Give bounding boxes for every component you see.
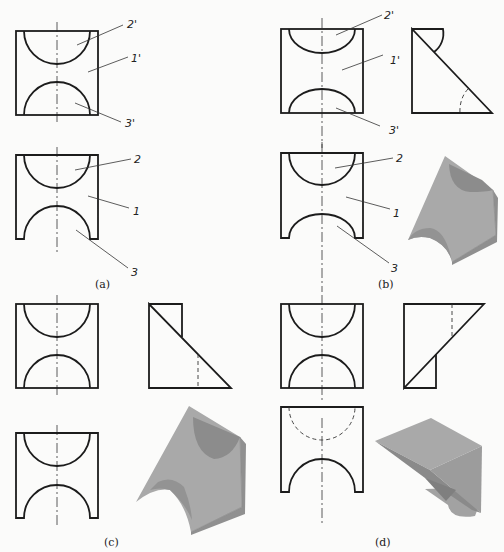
panel-a: 2' 1' 3' 2 1 3 (a) — [16, 18, 141, 291]
panel-d: (d) — [281, 295, 484, 549]
panel-d-front-view — [281, 295, 363, 400]
orthographic-projection-figure: 2' 1' 3' 2 1 3 (a) 2' 1' — [0, 0, 504, 552]
label-3: 3 — [391, 262, 398, 275]
label-1-prime: 1' — [390, 54, 400, 67]
panel-b-front-view: 2' 1' 3' — [281, 9, 400, 148]
panel-c-front-view — [16, 295, 98, 395]
label-1: 1 — [133, 205, 140, 218]
label-2-prime: 2' — [384, 9, 394, 22]
label-3: 3 — [131, 266, 138, 279]
label-3-prime: 3' — [389, 124, 399, 137]
panel-a-top-view: 2 1 3 — [16, 147, 141, 279]
label-2-prime: 2' — [127, 18, 137, 31]
leader-line — [77, 25, 123, 45]
panel-c-side-view — [149, 304, 231, 388]
panel-c: (c) — [16, 295, 246, 549]
label-2: 2 — [134, 153, 141, 166]
caption-c: (c) — [104, 536, 119, 549]
caption-d: (d) — [375, 536, 391, 549]
panel-b-isometric-solid — [408, 156, 498, 265]
label-1: 1 — [393, 207, 400, 220]
panel-d-isometric-solid — [375, 418, 482, 517]
leader-line — [76, 230, 128, 268]
leader-line — [88, 196, 129, 208]
label-3-prime: 3' — [125, 117, 135, 130]
panel-d-side-view — [404, 304, 484, 388]
panel-c-isometric-solid — [136, 406, 246, 535]
caption-b: (b) — [378, 278, 394, 291]
caption-a: (a) — [95, 278, 110, 291]
panel-c-top-view — [16, 425, 98, 528]
leader-line — [336, 108, 380, 126]
leader-line — [336, 15, 382, 35]
panel-b: 2' 1' 3' 2 1 3 (b) — [281, 9, 498, 292]
leader-line — [75, 159, 131, 170]
leader-line — [88, 57, 128, 72]
leader-line — [335, 158, 393, 168]
panel-d-top-view — [281, 407, 363, 525]
panel-b-top-view: 2 1 3 — [281, 142, 403, 292]
leader-line — [346, 197, 390, 209]
panel-b-side-view — [412, 29, 492, 113]
label-2: 2 — [396, 152, 403, 165]
label-1-prime: 1' — [131, 52, 141, 65]
panel-a-front-view: 2' 1' 3' — [16, 18, 141, 130]
